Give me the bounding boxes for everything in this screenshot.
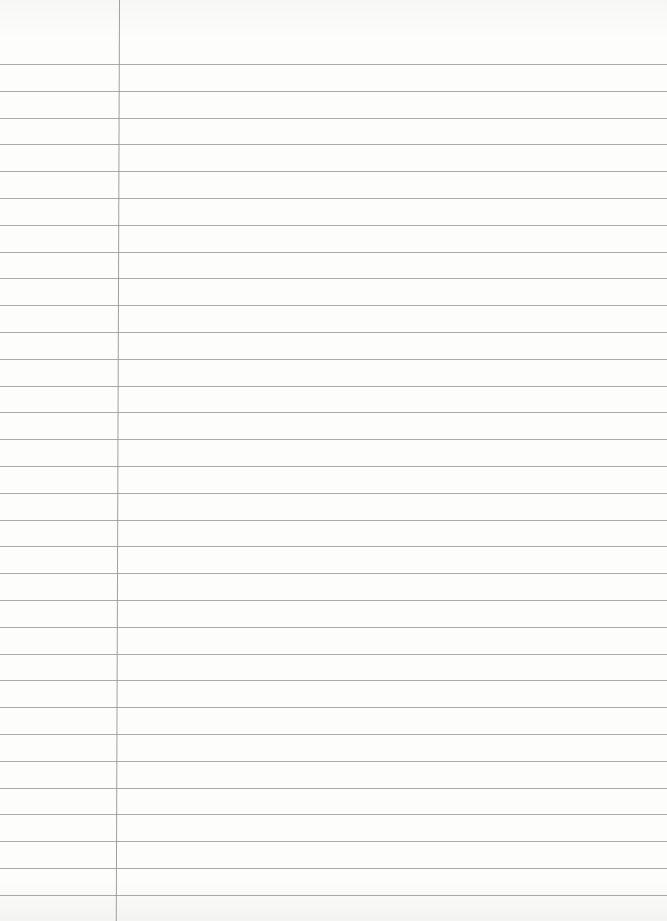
ruled-paper: [0, 0, 667, 921]
ruled-line: [0, 332, 667, 333]
ruled-line: [0, 895, 667, 896]
ruled-line: [0, 64, 667, 65]
ruled-line: [0, 412, 667, 413]
ruled-line: [0, 680, 667, 681]
ruled-line: [0, 573, 667, 574]
ruled-line: [0, 386, 667, 387]
ruled-line: [0, 788, 667, 789]
ruled-line: [0, 654, 667, 655]
ruled-line: [0, 359, 667, 360]
ruled-line: [0, 466, 667, 467]
ruled-line: [0, 439, 667, 440]
ruled-line: [0, 278, 667, 279]
ruled-line: [0, 144, 667, 145]
margin-line: [116, 0, 120, 921]
ruled-line: [0, 707, 667, 708]
ruled-line: [0, 225, 667, 226]
ruled-line: [0, 734, 667, 735]
ruled-line: [0, 814, 667, 815]
ruled-line: [0, 761, 667, 762]
ruled-line: [0, 252, 667, 253]
ruled-line: [0, 868, 667, 869]
ruled-line: [0, 118, 667, 119]
ruled-line: [0, 305, 667, 306]
ruled-line: [0, 600, 667, 601]
ruled-line: [0, 91, 667, 92]
ruled-line: [0, 627, 667, 628]
ruled-line: [0, 520, 667, 521]
ruled-line: [0, 841, 667, 842]
ruled-line: [0, 198, 667, 199]
ruled-line: [0, 546, 667, 547]
ruled-line: [0, 493, 667, 494]
ruled-line: [0, 171, 667, 172]
